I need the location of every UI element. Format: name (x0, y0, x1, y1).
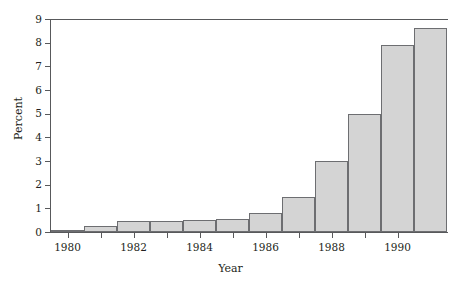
x-tick-label: 1980 (54, 242, 81, 253)
x-tick-label: 1984 (186, 242, 213, 253)
y-tick (45, 232, 50, 233)
x-axis-title: Year (0, 262, 461, 275)
x-tick-label: 1988 (318, 242, 345, 253)
y-tick (45, 90, 50, 91)
bar (84, 226, 117, 232)
x-tick-label: 1990 (384, 242, 411, 253)
y-tick (45, 66, 50, 67)
bar (117, 221, 150, 232)
x-tick (299, 233, 300, 238)
x-tick-label: 1982 (120, 242, 147, 253)
bar (216, 219, 249, 232)
x-tick (398, 233, 399, 238)
y-tick-label: 6 (28, 85, 42, 96)
bar (249, 213, 282, 232)
y-tick (45, 161, 50, 162)
x-axis-line (50, 232, 448, 233)
y-tick (45, 19, 50, 20)
y-tick (45, 185, 50, 186)
y-axis-title: Percent (12, 79, 25, 159)
y-axis-line (50, 19, 51, 233)
y-tick-label: 4 (28, 132, 42, 143)
y-tick (45, 114, 50, 115)
x-tick (101, 233, 102, 238)
y-tick-label: 0 (28, 227, 42, 238)
x-tick (134, 233, 135, 238)
bar-chart: 0123456789 198019821984198619881990 Perc… (0, 0, 461, 285)
x-tick (365, 233, 366, 238)
x-tick (332, 233, 333, 238)
y-tick-label: 5 (28, 108, 42, 119)
x-tick (200, 233, 201, 238)
y-tick-label: 7 (28, 61, 42, 72)
y-tick-label: 1 (28, 203, 42, 214)
x-tick (266, 233, 267, 238)
y-tick-label: 2 (28, 179, 42, 190)
bar (51, 230, 84, 232)
y-tick-label: 3 (28, 156, 42, 167)
bar (414, 28, 447, 232)
x-tick-label: 1986 (252, 242, 279, 253)
bar (183, 220, 216, 232)
x-tick (68, 233, 69, 238)
y-tick (45, 208, 50, 209)
bar (315, 161, 348, 232)
x-tick (167, 233, 168, 238)
bar (282, 197, 315, 233)
y-tick (45, 137, 50, 138)
y-tick-label: 9 (28, 14, 42, 25)
bar (348, 114, 381, 232)
x-tick (233, 233, 234, 238)
plot-top-frame (50, 19, 448, 20)
bar (381, 45, 414, 232)
y-tick (45, 43, 50, 44)
bar (150, 221, 183, 232)
y-tick-label: 8 (28, 37, 42, 48)
